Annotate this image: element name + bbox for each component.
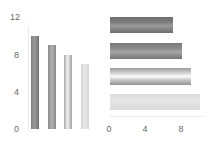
vertical-bar-3 <box>64 55 72 129</box>
horizontal-bar-chart <box>100 0 213 145</box>
x-tick-label: 0 <box>103 124 115 134</box>
vertical-bar-chart: 12 8 4 0 <box>0 0 100 145</box>
vertical-bar-2 <box>48 45 56 129</box>
x-tick-label: 8 <box>175 124 187 134</box>
x-axis-line <box>109 116 204 117</box>
x-tick-label: 4 <box>139 124 151 134</box>
horizontal-bar-4 <box>110 17 173 33</box>
vertical-bar-4 <box>81 64 89 129</box>
y-tick-label: 12 <box>10 12 30 22</box>
horizontal-bar-1 <box>110 94 200 110</box>
y-axis-line <box>28 26 29 130</box>
vertical-bar-1 <box>31 36 39 129</box>
horizontal-bar-2 <box>110 68 191 85</box>
horizontal-bar-3 <box>110 43 182 59</box>
